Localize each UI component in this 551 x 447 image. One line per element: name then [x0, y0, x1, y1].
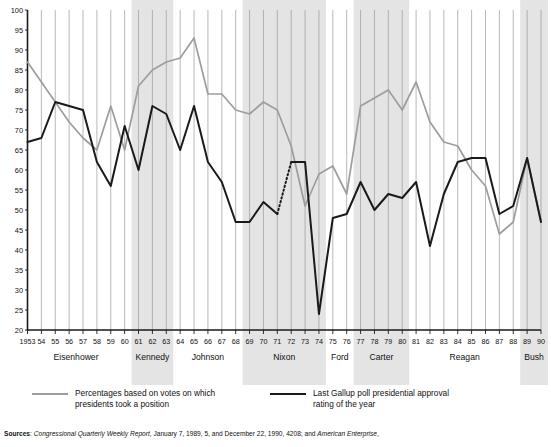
svg-text:77: 77	[357, 337, 365, 346]
svg-text:80: 80	[398, 337, 406, 346]
svg-text:Kennedy: Kennedy	[135, 352, 170, 362]
svg-text:Carter: Carter	[369, 352, 393, 362]
svg-text:40: 40	[15, 246, 23, 255]
svg-text:64: 64	[176, 337, 184, 346]
svg-text:70: 70	[15, 126, 23, 135]
legend-label-approval: Last Gallup poll presidential approval r…	[313, 388, 449, 409]
svg-text:87: 87	[495, 337, 503, 346]
svg-text:Bush: Bush	[524, 352, 544, 362]
svg-text:60: 60	[121, 337, 129, 346]
svg-text:55: 55	[15, 186, 23, 195]
sources-italic-1: Congressional Quarterly Weekly Report	[34, 430, 150, 437]
legend-item-votes: Percentages based on votes on which pres…	[32, 388, 215, 409]
svg-text:78: 78	[370, 337, 378, 346]
svg-text:89: 89	[523, 337, 531, 346]
svg-text:67: 67	[218, 337, 226, 346]
svg-text:72: 72	[287, 337, 295, 346]
svg-text:59: 59	[107, 337, 115, 346]
svg-text:Nixon: Nixon	[273, 352, 295, 362]
svg-text:54: 54	[37, 337, 45, 346]
svg-text:75: 75	[329, 337, 337, 346]
svg-text:88: 88	[509, 337, 517, 346]
legend-swatch-black-icon	[270, 393, 306, 395]
y-axis-tick-labels: 20253035404550556065707580859095100	[11, 6, 23, 335]
svg-text:84: 84	[454, 337, 462, 346]
svg-text:75: 75	[15, 106, 23, 115]
svg-text:68: 68	[232, 337, 240, 346]
svg-text:35: 35	[15, 266, 23, 275]
svg-text:45: 45	[15, 226, 23, 235]
svg-text:90: 90	[15, 46, 23, 55]
svg-text:1953: 1953	[20, 337, 36, 346]
sources-plain-1: , January 7, 1989, 5, and December 22, 1…	[150, 430, 318, 437]
svg-text:66: 66	[204, 337, 212, 346]
svg-text:58: 58	[93, 337, 101, 346]
svg-text:60: 60	[15, 166, 23, 175]
sources-plain-2: ,	[377, 430, 379, 437]
chart-plot-area: 20253035404550556065707580859095100 1953…	[0, 0, 551, 385]
svg-text:76: 76	[343, 337, 351, 346]
svg-text:100: 100	[11, 6, 23, 15]
svg-text:74: 74	[315, 337, 323, 346]
svg-text:Ford: Ford	[331, 352, 349, 362]
svg-text:63: 63	[162, 337, 170, 346]
svg-text:73: 73	[301, 337, 309, 346]
svg-text:56: 56	[65, 337, 73, 346]
legend-item-approval: Last Gallup poll presidential approval r…	[270, 388, 449, 409]
svg-text:65: 65	[190, 337, 198, 346]
svg-text:95: 95	[15, 26, 23, 35]
svg-text:80: 80	[15, 86, 23, 95]
svg-text:71: 71	[273, 337, 281, 346]
svg-text:65: 65	[15, 146, 23, 155]
svg-text:86: 86	[481, 337, 489, 346]
svg-text:85: 85	[468, 337, 476, 346]
sources-label: Sources	[4, 430, 30, 437]
svg-text:61: 61	[135, 337, 143, 346]
svg-text:69: 69	[246, 337, 254, 346]
legend-label-votes: Percentages based on votes on which pres…	[75, 388, 215, 409]
svg-text:55: 55	[51, 337, 59, 346]
svg-text:Eisenhower: Eisenhower	[54, 352, 99, 362]
svg-text:81: 81	[412, 337, 420, 346]
svg-text:Reagan: Reagan	[450, 352, 480, 362]
svg-text:30: 30	[15, 286, 23, 295]
svg-text:79: 79	[384, 337, 392, 346]
svg-text:20: 20	[15, 326, 23, 335]
approval-ratings-chart: 20253035404550556065707580859095100 1953…	[0, 0, 551, 385]
svg-text:57: 57	[79, 337, 87, 346]
svg-text:90: 90	[537, 337, 545, 346]
sources-italic-2: American Enterprise	[317, 430, 377, 437]
chart-legend: Percentages based on votes on which pres…	[0, 388, 551, 420]
svg-text:25: 25	[15, 306, 23, 315]
svg-text:82: 82	[426, 337, 434, 346]
sources-note: Sources: Congressional Quarterly Weekly …	[4, 429, 549, 438]
svg-text:62: 62	[148, 337, 156, 346]
svg-text:50: 50	[15, 206, 23, 215]
svg-text:85: 85	[15, 66, 23, 75]
svg-text:70: 70	[259, 337, 267, 346]
legend-swatch-grey-icon	[32, 393, 68, 395]
svg-text:Johnson: Johnson	[192, 352, 225, 362]
svg-text:83: 83	[440, 337, 448, 346]
